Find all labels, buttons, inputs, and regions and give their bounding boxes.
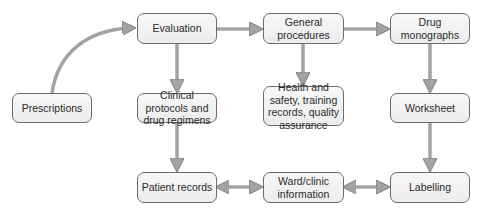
node-clinical-protocols: Clinical protocols and drug regimens — [137, 93, 217, 123]
node-general-procedures: General procedures — [263, 13, 344, 44]
node-patient-records: Patient records — [137, 172, 217, 203]
node-labelling: Labelling — [390, 172, 470, 203]
arrow-prescriptions-evaluation — [52, 28, 130, 93]
node-health-safety: Health and safety, training records, qua… — [263, 86, 344, 126]
node-drug-monographs: Drug monographs — [390, 13, 470, 44]
node-ward-clinic: Ward/clinic information — [263, 172, 344, 203]
node-evaluation: Evaluation — [137, 13, 217, 44]
node-prescriptions: Prescriptions — [12, 93, 92, 123]
node-worksheet: Worksheet — [390, 93, 470, 123]
